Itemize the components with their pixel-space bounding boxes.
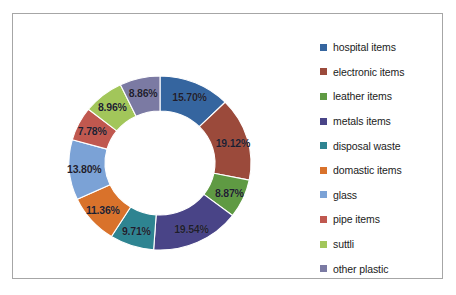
legend-item-label: disposal waste	[333, 140, 400, 152]
legend-swatch-icon	[320, 68, 327, 75]
legend-item-label: hospital items	[333, 41, 396, 53]
legend-swatch-icon	[320, 142, 327, 149]
chart-frame: 15.70%19.12%8.87%19.54%9.71%11.36%13.80%…	[12, 13, 443, 279]
legend-swatch-icon	[320, 265, 327, 272]
legend-item[interactable]: other plastic	[320, 256, 440, 281]
donut-chart: 15.70%19.12%8.87%19.54%9.71%11.36%13.80%…	[59, 68, 261, 258]
legend-item[interactable]: glass	[320, 183, 440, 208]
legend-item[interactable]: leather items	[320, 84, 440, 109]
legend-item-label: metals items	[333, 115, 391, 127]
slice-data-label: 7.78%	[78, 125, 107, 137]
legend-item-label: glass	[333, 189, 357, 201]
legend-item[interactable]: suttli	[320, 232, 440, 257]
legend-item[interactable]: metals items	[320, 109, 440, 134]
slice-data-label: 15.70%	[172, 91, 206, 103]
slice-data-label: 11.36%	[86, 204, 120, 216]
slice-data-label: 19.12%	[216, 137, 250, 149]
legend-swatch-icon	[320, 216, 327, 223]
legend-item-label: other plastic	[333, 263, 388, 275]
chart-legend: hospital itemselectronic itemsleather it…	[320, 35, 440, 281]
legend-item[interactable]: hospital items	[320, 35, 440, 60]
legend-item[interactable]: pipe items	[320, 207, 440, 232]
legend-swatch-icon	[320, 167, 327, 174]
legend-item[interactable]: electronic items	[320, 60, 440, 85]
legend-swatch-icon	[320, 118, 327, 125]
legend-item[interactable]: domastic items	[320, 158, 440, 183]
slice-data-label: 19.54%	[174, 223, 208, 235]
legend-item[interactable]: disposal waste	[320, 133, 440, 158]
legend-swatch-icon	[320, 191, 327, 198]
legend-item-label: domastic items	[333, 164, 402, 176]
slice-data-label: 9.71%	[122, 225, 151, 237]
slice-data-label: 13.80%	[67, 163, 101, 175]
legend-item-label: leather items	[333, 90, 392, 102]
legend-swatch-icon	[320, 44, 327, 51]
legend-item-label: electronic items	[333, 66, 404, 78]
slice-data-label: 8.96%	[98, 101, 127, 113]
legend-item-label: pipe items	[333, 213, 380, 225]
slice-data-label: 8.87%	[215, 187, 244, 199]
legend-item-label: suttli	[333, 238, 354, 250]
slice-data-label: 8.86%	[129, 87, 158, 99]
legend-swatch-icon	[320, 241, 327, 248]
legend-swatch-icon	[320, 93, 327, 100]
